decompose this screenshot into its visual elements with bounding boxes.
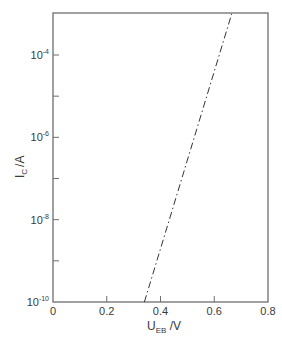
y-tick-label: 10-10 xyxy=(27,295,49,308)
x-tick-label: 0.4 xyxy=(153,305,168,317)
series-line xyxy=(144,14,231,302)
x-axis-title: UEB /V xyxy=(147,319,181,335)
y-axis-ticks: 10-410-610-810-10 xyxy=(27,48,59,308)
x-tick-label: 0 xyxy=(50,305,56,317)
x-tick-label: 0.8 xyxy=(260,305,275,317)
data-series xyxy=(144,14,231,302)
y-tick-label: 10-6 xyxy=(31,130,50,143)
y-tick-label: 10-8 xyxy=(31,213,50,226)
x-tick-label: 0.6 xyxy=(207,305,222,317)
y-tick-label: 10-4 xyxy=(31,48,50,61)
x-tick-label: 0.2 xyxy=(99,305,114,317)
plot-border xyxy=(53,13,268,302)
plot-frame xyxy=(53,13,268,302)
x-axis-ticks: 00.20.40.60.8 xyxy=(50,296,276,317)
chart: 00.20.40.60.8 10-410-610-810-10 UEB /V I… xyxy=(0,0,282,343)
y-axis-title: IC/A xyxy=(13,156,29,178)
